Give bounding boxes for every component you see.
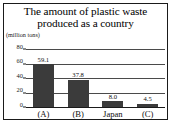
y-tick-label: 0 — [20, 102, 23, 108]
y-axis-unit-label: (million tons) — [6, 31, 40, 38]
y-tick-mark — [23, 63, 26, 64]
bar-value-label: 4.5 — [144, 96, 152, 103]
bar-value-label: 37.8 — [72, 72, 84, 79]
chart-figure: The amount of plastic waste produced as … — [3, 3, 168, 120]
x-axis-label: Japan — [103, 110, 123, 119]
y-tick-mark — [23, 107, 26, 108]
x-axis-label: (A) — [37, 110, 49, 119]
x-axis-label: (C) — [142, 110, 153, 119]
y-tick-mark — [23, 78, 26, 79]
y-tick-label: 40 — [17, 73, 23, 79]
bar-value-label: 59.1 — [38, 57, 50, 64]
y-tick-label: 20 — [17, 87, 23, 93]
bar-value-label: 8.0 — [109, 94, 117, 101]
chart-title-line-2: produced as a country — [4, 18, 167, 30]
bar — [33, 64, 54, 107]
chart-title-line-1: The amount of plastic waste — [4, 6, 167, 18]
bar — [137, 104, 158, 107]
y-tick-label: 80 — [17, 44, 23, 50]
bar — [102, 101, 123, 107]
x-axis-line — [26, 107, 165, 108]
y-tick-mark — [23, 49, 26, 50]
y-tick-mark — [23, 92, 26, 93]
gridline — [26, 49, 165, 50]
bar — [68, 80, 89, 107]
plot-area: 020406080 59.137.88.04.5 — [26, 49, 165, 108]
x-axis-label: (B) — [72, 110, 83, 119]
y-tick-label: 60 — [17, 58, 23, 64]
chart-title: The amount of plastic waste produced as … — [4, 6, 167, 29]
